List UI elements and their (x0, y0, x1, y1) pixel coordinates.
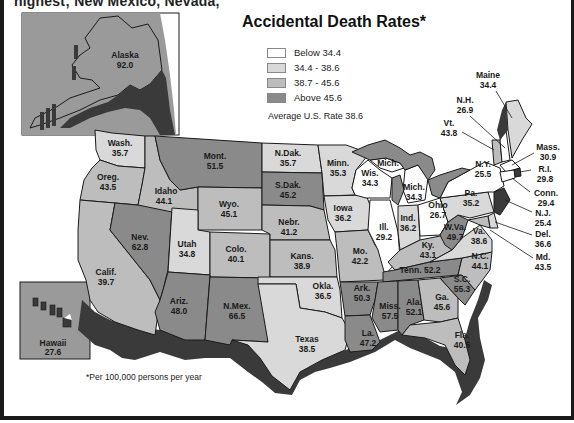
label-kans-name: Kans. (290, 251, 313, 261)
label-pa-name: Pa. (465, 188, 478, 198)
label-nc-rate: 44.1 (472, 261, 489, 271)
label-alaska-name: Alaska (111, 50, 139, 60)
label-ala-rate: 52.1 (406, 307, 423, 317)
leader-md (490, 230, 533, 258)
label-ga-rate: 45.6 (434, 302, 451, 312)
label-nh-name: N.H. (457, 95, 474, 105)
label-ky-name: Ky. (422, 240, 435, 250)
label-sc-name: S.C. (454, 274, 471, 284)
label-del-rate: 36.6 (535, 239, 552, 249)
label-nmex-rate: 66.5 (229, 311, 246, 321)
label-wash-name: Wash. (108, 138, 133, 148)
leader-ri (520, 170, 531, 172)
label-iowa-rate: 36.2 (335, 213, 352, 223)
state-maine (506, 100, 532, 158)
legend-swatch-white (267, 48, 286, 58)
leader-nj (505, 200, 532, 212)
label-ndak-rate: 35.7 (280, 158, 297, 168)
footnote: *Per 100,000 persons per year (86, 372, 202, 382)
label-nev-rate: 62.8 (132, 242, 149, 252)
label-del-name: Del. (535, 229, 551, 239)
label-ark-name: Ark. (354, 283, 371, 293)
label-colo-name: Colo. (225, 244, 246, 254)
label-alaska-rate: 92.0 (117, 60, 134, 70)
label-idaho-name: Idaho (155, 186, 178, 196)
legend-swatch-light-gray (267, 63, 286, 73)
map-title: Accidental Death Rates* (242, 13, 426, 31)
label-ind-rate: 36.2 (400, 223, 417, 233)
label-mo-rate: 42.2 (352, 256, 369, 266)
legend-label: Below 34.4 (294, 47, 341, 58)
state-conn (500, 170, 515, 182)
label-wva-name: W.Va. (444, 222, 466, 232)
label-va-rate: 38.6 (471, 236, 488, 246)
label-iowa-name: Iowa (334, 203, 353, 213)
label-vt-name: Vt. (444, 118, 455, 128)
label-minn-name: Minn. (327, 158, 349, 168)
label-mass-rate: 30.9 (540, 152, 557, 162)
label-ala-name: Ala. (406, 297, 422, 307)
leader-vt (462, 132, 494, 150)
label-sdak-rate: 45.2 (280, 190, 297, 200)
label-ky-rate: 43.1 (420, 250, 437, 260)
average-rate-note: Average U.S. Rate 38.6 (268, 111, 363, 121)
label-utah-rate: 34.8 (179, 249, 196, 259)
label-idaho-rate: 44.1 (156, 196, 173, 206)
alaska-inset: Alaska 92.0 (22, 13, 179, 135)
label-ill-name: Ill. (379, 222, 388, 232)
label-vt-rate: 43.8 (441, 128, 458, 138)
label-ri-name: R.I. (538, 164, 551, 174)
legend-label: Above 45.6 (294, 92, 342, 103)
legend-item-above: Above 45.6 (267, 90, 342, 105)
label-conn-rate: 29.4 (538, 198, 555, 208)
label-wyo-rate: 45.1 (221, 209, 238, 219)
label-wyo-name: Wyo. (219, 199, 239, 209)
leader-mass (512, 153, 534, 165)
label-mich-upper-name: Mich. (377, 158, 399, 168)
label-nebr-name: Nebr. (278, 217, 299, 227)
label-nmex-name: N.Mex. (223, 301, 250, 311)
label-tenn: Tenn. 52.2 (400, 265, 441, 275)
label-ny-rate: 25.5 (475, 169, 492, 179)
legend-swatch-dark-gray (267, 93, 286, 103)
label-sdak-name: S.Dak. (275, 180, 301, 190)
label-la-rate: 47.2 (360, 338, 377, 348)
label-nebr-rate: 41.2 (281, 227, 298, 237)
label-ariz-rate: 48.0 (171, 306, 188, 316)
legend-label: 38.7 - 45.6 (294, 77, 339, 88)
label-mich-rate: 34.3 (406, 192, 423, 202)
label-ark-rate: 50.3 (354, 293, 371, 303)
label-nev-name: Nev. (131, 232, 148, 242)
label-ohio-name: Ohio (428, 200, 447, 210)
legend-item-below: Below 34.4 (267, 45, 342, 60)
label-kans-rate: 38.9 (294, 261, 311, 271)
label-utah-name: Utah (178, 239, 197, 249)
label-calif-rate: 39.7 (98, 277, 115, 287)
label-okla-name: Okla. (313, 281, 334, 291)
label-minn-rate: 35.3 (330, 168, 347, 178)
label-va-name: Va. (473, 226, 485, 236)
leader-del (495, 222, 532, 235)
label-ind-name: Ind. (400, 213, 415, 223)
label-ohio-rate: 26.7 (430, 210, 447, 220)
label-miss-name: Miss. (379, 301, 400, 311)
label-mass-name: Mass. (536, 142, 560, 152)
legend-swatch-mid-gray (267, 78, 286, 88)
label-fla-rate: 40.5 (454, 340, 471, 350)
label-wis-rate: 34.3 (362, 178, 379, 188)
label-nj-rate: 25.4 (535, 218, 552, 228)
label-texas-rate: 38.5 (299, 344, 316, 354)
legend-item-mid: 38.7 - 45.6 (267, 75, 342, 90)
label-maine-rate: 34.4 (480, 80, 497, 90)
label-texas-name: Texas (295, 334, 319, 344)
label-mont-rate: 51.5 (207, 161, 224, 171)
label-ga-name: Ga. (435, 292, 449, 302)
label-ny-name: N.Y. (475, 159, 491, 169)
label-wis-name: Wis. (361, 168, 378, 178)
label-fla-name: Fla. (455, 330, 470, 340)
label-mich-name: Mich. (403, 182, 425, 192)
legend-label: 34.4 - 38.6 (294, 62, 339, 73)
label-mont-name: Mont. (204, 151, 227, 161)
label-nc-name: N.C. (472, 251, 489, 261)
label-nj-name: N.J. (535, 208, 551, 218)
